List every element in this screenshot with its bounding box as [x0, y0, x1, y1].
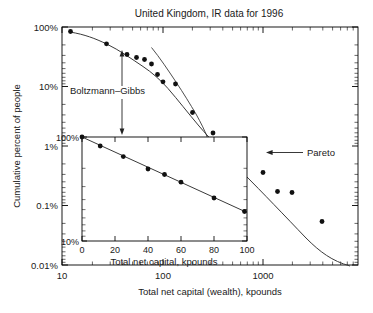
data-point — [211, 131, 216, 136]
y-tick-label-10pct: 10% — [39, 81, 59, 92]
x-tick-label-10: 10 — [57, 270, 68, 281]
x-axis-label: Total net capital (wealth), kpounds — [138, 286, 282, 297]
inset-x-tick-label-40: 40 — [143, 245, 153, 255]
inset-x-tick-label-20: 20 — [110, 245, 120, 255]
data-point — [149, 62, 154, 67]
inset-data-point — [121, 154, 126, 159]
wealth-distribution-chart: United Kingdom, IR data for 1996 — [0, 0, 373, 313]
inset-data-point — [179, 180, 184, 185]
data-point — [155, 72, 160, 77]
annotation-pareto-label: Pareto — [307, 147, 335, 158]
data-point — [104, 41, 109, 46]
data-point — [320, 219, 325, 224]
inset-x-tick-label-60: 60 — [176, 245, 186, 255]
inset-data-point — [80, 135, 85, 140]
data-point — [161, 79, 166, 84]
inset-y-tick-label-100pct: 100% — [56, 133, 79, 143]
chart-title: United Kingdom, IR data for 1996 — [135, 8, 284, 19]
data-point — [173, 82, 178, 87]
inset-x-tick-label-80: 80 — [209, 245, 219, 255]
annotation-boltzmann-gibbs-label: Boltzmann–Gibbs — [70, 85, 145, 96]
inset-y-tick-label-10pct: 10% — [61, 237, 79, 247]
inset-plot-frame — [82, 137, 247, 241]
data-point — [261, 170, 266, 175]
inset-data-point — [98, 144, 103, 149]
inset-data-point — [146, 167, 151, 172]
inset-data-point — [212, 196, 217, 201]
y-tick-label-0p01pct: 0.01% — [31, 260, 58, 271]
figure-container: United Kingdom, IR data for 1996 — [0, 0, 373, 313]
data-point — [190, 110, 195, 115]
x-tick-label-100: 100 — [155, 270, 171, 281]
y-tick-label-0p1pct: 0.1% — [36, 200, 58, 211]
inset-x-tick-label-0: 0 — [79, 245, 84, 255]
data-point — [134, 55, 139, 60]
data-point — [125, 52, 130, 57]
data-point — [275, 189, 280, 194]
data-point — [142, 57, 147, 62]
y-axis-label: Cumulative percent of people — [11, 84, 22, 208]
inset-x-tick-label-100: 100 — [239, 245, 254, 255]
y-tick-label-100pct: 100% — [34, 22, 59, 33]
data-point — [68, 29, 73, 34]
data-point — [290, 190, 295, 195]
x-tick-label-1000: 1000 — [252, 270, 273, 281]
inset-x-axis-label: Total net capital, kpounds — [110, 256, 217, 267]
inset-data-point — [242, 209, 247, 214]
inset-data-point — [162, 172, 167, 177]
